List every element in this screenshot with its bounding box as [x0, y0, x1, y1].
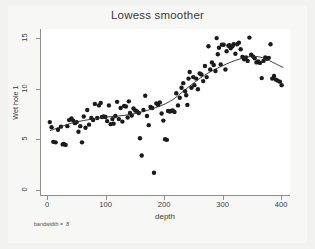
- scatter-point: [87, 122, 91, 126]
- scatter-point: [63, 143, 67, 147]
- y-tick-label: 15: [20, 30, 29, 46]
- lowess-smoother-chart-screenshot: Lowess smoother Wet hole 1 depth 051015 …: [0, 0, 315, 249]
- scatter-point: [49, 125, 53, 129]
- scatter-point: [85, 108, 89, 112]
- scatter-point: [165, 138, 169, 142]
- scatter-point: [203, 64, 207, 68]
- scatter-point: [138, 136, 142, 140]
- scatter-point: [99, 101, 103, 105]
- plot-svg: [41, 29, 291, 196]
- x-tick-mark: [281, 196, 282, 200]
- scatter-point: [181, 81, 185, 85]
- scatter-point: [268, 42, 272, 46]
- scatter-point: [93, 102, 97, 106]
- scatter-point: [159, 111, 163, 115]
- scatter-point: [124, 104, 128, 108]
- scatter-point: [83, 125, 87, 129]
- scatter-point: [245, 59, 249, 63]
- scatter-point: [107, 103, 111, 107]
- scatter-point: [186, 76, 190, 80]
- plot-area: [40, 29, 290, 196]
- scatter-point: [127, 99, 131, 103]
- scatter-point: [48, 120, 52, 124]
- x-tick-label: 200: [152, 200, 176, 209]
- scatter-point: [216, 52, 220, 56]
- y-tick-label: 5: [20, 131, 29, 147]
- scatter-point: [76, 130, 80, 134]
- scatter-point: [158, 100, 162, 104]
- scatter-point: [143, 94, 147, 98]
- scatter-point: [196, 87, 200, 91]
- scatter-point: [185, 103, 189, 107]
- scatter-point: [78, 124, 82, 128]
- scatter-point: [179, 86, 183, 90]
- scatter-point: [279, 83, 283, 87]
- scatter-point: [125, 115, 129, 119]
- x-tick-mark: [164, 196, 165, 200]
- lowess-smooth-line: [50, 56, 284, 130]
- scatter-point: [247, 35, 251, 39]
- scatter-point: [172, 110, 176, 114]
- y-tick-label: 0: [20, 181, 29, 197]
- scatter-point: [117, 117, 121, 121]
- scatter-point: [201, 79, 205, 83]
- scatter-point: [224, 49, 228, 53]
- scatter-point: [206, 44, 210, 48]
- scatter-point: [214, 36, 218, 40]
- scatter-point: [140, 153, 144, 157]
- scatter-point: [147, 123, 151, 127]
- scatter-point: [115, 100, 119, 104]
- scatter-point: [238, 47, 242, 51]
- scatter-point: [204, 75, 208, 79]
- scatter-point: [237, 40, 241, 44]
- scatter-point: [223, 67, 227, 71]
- x-tick-label: 300: [211, 200, 235, 209]
- x-tick-mark: [106, 196, 107, 200]
- scatter-point: [161, 118, 165, 122]
- scatter-point: [152, 171, 156, 175]
- scatter-point: [80, 140, 84, 144]
- x-tick-mark: [223, 196, 224, 200]
- x-tick-label: 100: [94, 200, 118, 209]
- scatter-point: [53, 140, 57, 144]
- scatter-point: [260, 76, 264, 80]
- x-tick-label: 400: [269, 200, 293, 209]
- scatter-point: [145, 114, 149, 118]
- scatter-point: [188, 70, 192, 74]
- chart-title: Lowess smoother: [0, 9, 315, 21]
- x-tick-mark: [47, 196, 48, 200]
- scatter-point: [82, 114, 86, 118]
- y-axis-title: Wet hole 1: [11, 58, 20, 148]
- scatter-point: [105, 119, 109, 123]
- scatter-point: [212, 63, 216, 67]
- scatter-point: [174, 91, 178, 95]
- scatter-point: [178, 96, 182, 100]
- y-tick-label: 10: [20, 80, 29, 96]
- x-axis-title: depth: [40, 212, 290, 221]
- scatter-point: [184, 93, 188, 97]
- scatter-point: [120, 119, 124, 123]
- x-tick-label: 0: [35, 200, 59, 209]
- scatter-point: [176, 103, 180, 107]
- scatter-point: [111, 121, 115, 125]
- scatter-point: [221, 42, 225, 46]
- bandwidth-note: bandwidth = .8: [34, 221, 69, 227]
- scatter-point: [233, 52, 237, 56]
- scatter-points-layer: [48, 35, 284, 175]
